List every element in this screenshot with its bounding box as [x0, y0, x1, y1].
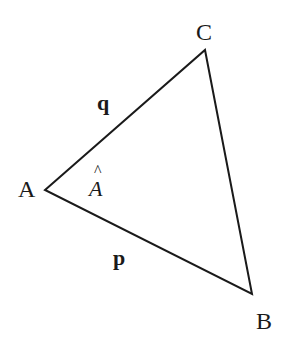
angle-label-a: A — [87, 176, 103, 201]
vertex-label-a: A — [18, 176, 36, 202]
vertex-label-b: B — [256, 308, 272, 334]
side-label-q: q — [97, 90, 110, 115]
triangle-abc — [45, 50, 252, 294]
side-label-p: p — [113, 245, 125, 270]
vertex-label-c: C — [196, 19, 212, 45]
triangle-diagram: C A B q p ^ A — [0, 0, 287, 344]
